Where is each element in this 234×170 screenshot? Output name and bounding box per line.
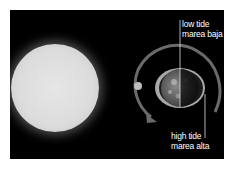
orbit-arrowhead-icon [146,114,157,123]
high-tide-label-en: high tide [171,131,209,141]
low-tide-label-en: low tide [182,19,223,29]
low-tide-label: low tide marea baja [182,19,223,39]
low-tide-label-es: marea baja [182,29,223,39]
tides-diagram: low tide marea baja high tide marea alta [10,10,224,159]
high-tide-label: high tide marea alta [171,131,209,151]
high-tide-label-es: marea alta [171,141,209,151]
moon [134,82,142,90]
